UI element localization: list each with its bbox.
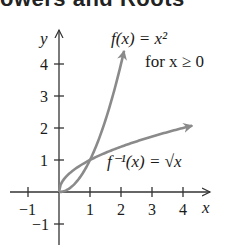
- x-tick-label: 4: [179, 201, 187, 218]
- y-tick-label: 1: [40, 152, 48, 169]
- graph: −11234 −11234 y x f(x) = x² for x ≥ 0 f⁻…: [0, 0, 229, 245]
- x-tick-label: 1: [86, 201, 94, 218]
- y-tick-label: 3: [40, 88, 48, 105]
- y-tick-label: 2: [40, 120, 48, 137]
- y-tick-label: −1: [32, 216, 49, 233]
- y-axis-label: y: [38, 29, 48, 48]
- y-tick-label: 4: [40, 56, 48, 73]
- x-tick-label: 3: [148, 201, 156, 218]
- x-axis-label: x: [201, 198, 210, 217]
- label-domain-restriction: for x ≥ 0: [145, 52, 204, 71]
- label-f-x-squared: f(x) = x²: [111, 29, 168, 48]
- x-tick-label: 2: [117, 201, 125, 218]
- label-f-inverse-sqrt: f⁻¹(x) = √x: [107, 152, 182, 171]
